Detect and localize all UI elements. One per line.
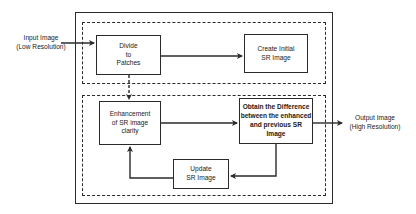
difference-to-update-arrow bbox=[231, 144, 276, 176]
update-to-enhancement-arrow bbox=[130, 147, 173, 178]
connector-layer bbox=[0, 0, 416, 214]
